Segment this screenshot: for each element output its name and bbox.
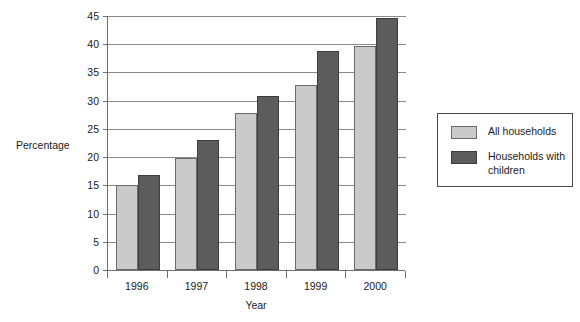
x-axis-title: Year	[245, 299, 266, 311]
x-axis-tick	[286, 271, 287, 278]
x-axis-tick-label: 2000	[364, 280, 387, 292]
x-axis-tick-label: 1999	[304, 280, 327, 292]
bar-1997-series-0	[175, 158, 197, 270]
bar-chart-figure: Percentage 051015202530354045 Year All h…	[0, 0, 580, 322]
legend-item-all-households: All households	[451, 125, 572, 139]
y-axis-tick-label: 15	[87, 179, 99, 191]
bar-1999-series-1	[317, 51, 339, 270]
x-axis-tick	[345, 271, 346, 278]
y-axis-tick-label: 45	[87, 10, 99, 22]
x-axis-tick-label: 1997	[185, 280, 208, 292]
y-axis-tick-label: 30	[87, 95, 99, 107]
bar-2000-series-0	[354, 46, 376, 270]
y-axis-tick-label: 35	[87, 66, 99, 78]
legend-label-series-0: All households	[488, 125, 556, 139]
bar-2000-series-1	[376, 18, 398, 270]
bar-1998-series-1	[257, 96, 279, 270]
x-axis-tick-label: 1998	[244, 280, 267, 292]
y-axis-tick-label: 0	[93, 264, 99, 276]
bar-group-1997	[168, 16, 228, 270]
y-axis-tick-label: 20	[87, 151, 99, 163]
x-axis-line	[107, 270, 405, 271]
plot-area: 051015202530354045	[107, 16, 405, 270]
bar-group-1998	[227, 16, 287, 270]
y-axis-tick-label: 5	[93, 236, 99, 248]
bar-group-1996	[108, 16, 168, 270]
y-axis-tick-label: 10	[87, 208, 99, 220]
bar-1996-series-1	[138, 175, 160, 270]
bar-group-2000	[346, 16, 406, 270]
y-axis-title: Percentage	[16, 139, 70, 151]
x-axis-tick	[107, 271, 108, 278]
legend-swatch-series-1	[451, 151, 477, 164]
x-axis-tick	[405, 271, 406, 278]
x-axis-tick	[167, 271, 168, 278]
bar-group-1999	[287, 16, 347, 270]
x-axis-tick	[226, 271, 227, 278]
x-axis-tick-label: 1996	[125, 280, 148, 292]
legend-item-households-with-children: Households with children	[451, 150, 572, 177]
y-axis-tick-label: 40	[87, 38, 99, 50]
bar-1996-series-0	[116, 185, 138, 270]
bar-1998-series-0	[235, 113, 257, 270]
chart-legend: All households Households with children	[437, 113, 573, 187]
bar-1999-series-0	[295, 85, 317, 270]
y-axis-tick-label: 25	[87, 123, 99, 135]
legend-label-series-1: Households with children	[488, 150, 572, 177]
bar-1997-series-1	[197, 140, 219, 270]
legend-swatch-series-0	[451, 126, 477, 139]
